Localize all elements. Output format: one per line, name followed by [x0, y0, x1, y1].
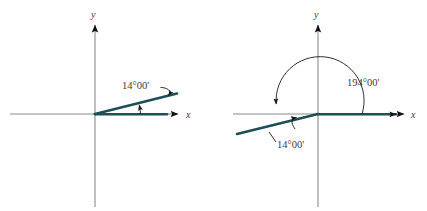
angle-diagram-svg: 14°00' x y 194°00' 14°00' x y — [0, 0, 427, 211]
figure-sheet: 14°00' x y 194°00' 14°00' x y — [0, 0, 427, 211]
y-axis-label-left: y — [90, 9, 96, 20]
terminal-side-ray — [237, 114, 318, 134]
label-leader-14-reference — [269, 132, 276, 142]
angle-14-degrees-diagram: 14°00' x y — [10, 9, 191, 207]
y-axis-label-right: y — [313, 9, 319, 20]
label-leader-14 — [161, 88, 170, 96]
terminal-side-ray — [95, 94, 177, 115]
x-axis-label-right: x — [410, 109, 416, 120]
angle-arc-14 — [139, 105, 140, 114]
angle-194-degrees-diagram: 194°00' 14°00' x y — [233, 9, 416, 207]
angle-label-194: 194°00' — [347, 77, 379, 88]
x-axis-label-left: x — [185, 109, 191, 120]
angle-label-14-reference: 14°00' — [277, 139, 304, 150]
angle-label-14: 14°00' — [122, 80, 149, 91]
